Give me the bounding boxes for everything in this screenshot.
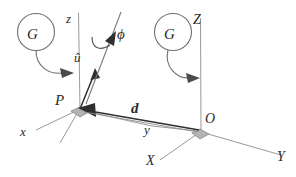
label-axis-x-local: x [19,124,26,139]
callout-arrowhead-left [60,68,74,78]
label-callout-right-G: G [164,26,175,42]
label-axis-y-local: y [142,122,150,137]
rotation-arc-phi [92,37,110,48]
rotation-axis-line [86,12,121,104]
label-vector-d: d [131,100,139,116]
label-axis-Y-global: Y [277,149,287,164]
vector-line-d [84,110,199,130]
geometry-diagram: G G z Z û ϕ P x y d O X Y [0,0,296,177]
label-origin-P: P [54,92,64,108]
label-rotation-angle-phi: ϕ [117,26,125,42]
axis-line-X-global [160,132,200,160]
callout-arrowhead-right [186,73,200,83]
axis-line-Y-global [201,132,281,155]
axis-line-Z-global [201,18,202,133]
diagram-canvas: G G z Z û ϕ P x y d O X Y [0,0,296,177]
label-origin-O: O [205,111,215,126]
label-callout-left-G: G [27,26,38,42]
rotation-arrowhead-phi [105,31,116,46]
axis-line-local-tick [60,110,79,143]
label-unit-vector-u-hat: û [74,50,81,65]
label-axis-Z-global: Z [193,12,201,27]
label-axis-X-global: X [145,153,155,168]
label-axis-z-local: z [65,11,71,26]
callout-arrow-curve-left [36,51,64,74]
